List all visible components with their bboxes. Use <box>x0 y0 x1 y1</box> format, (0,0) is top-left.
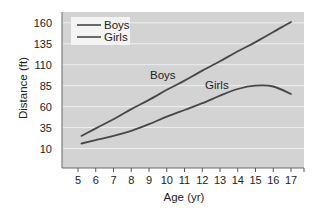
x-tick-label: 17 <box>285 174 297 186</box>
girls-inline-label: Girls <box>205 79 229 91</box>
x-tick-label: 7 <box>110 174 116 186</box>
x-tick-label: 9 <box>146 174 152 186</box>
x-tick-label: 11 <box>179 174 190 186</box>
y-axis-ticks: 10356085110135160 <box>34 17 52 155</box>
x-tick-label: 10 <box>161 174 173 186</box>
y-tick-label: 85 <box>40 80 52 92</box>
legend: Boys Girls <box>71 17 130 45</box>
x-axis-title: Age (yr) <box>164 191 205 203</box>
x-axis-ticks: 567891011121314151617 <box>75 168 304 186</box>
y-axis-title: Distance (ft) <box>17 57 29 119</box>
legend-boys-label: Boys <box>104 19 130 31</box>
y-tick-label: 35 <box>40 122 52 134</box>
x-tick-label: 6 <box>93 174 99 186</box>
y-tick-label: 160 <box>34 17 52 29</box>
x-tick-label: 5 <box>75 174 81 186</box>
boys-inline-label: Boys <box>150 69 176 81</box>
legend-girls-label: Girls <box>104 31 128 43</box>
y-tick-label: 60 <box>40 101 52 113</box>
x-tick-label: 16 <box>267 174 279 186</box>
line-chart: 10356085110135160 567891011121314151617 … <box>0 0 323 213</box>
x-tick-label: 14 <box>232 174 244 186</box>
x-tick-label: 12 <box>196 174 208 186</box>
y-tick-label: 135 <box>34 38 52 50</box>
y-tick-label: 10 <box>40 143 52 155</box>
x-tick-label: 8 <box>128 174 134 186</box>
y-tick-label: 110 <box>34 59 52 71</box>
x-tick-label: 15 <box>249 174 261 186</box>
x-tick-label: 13 <box>214 174 226 186</box>
